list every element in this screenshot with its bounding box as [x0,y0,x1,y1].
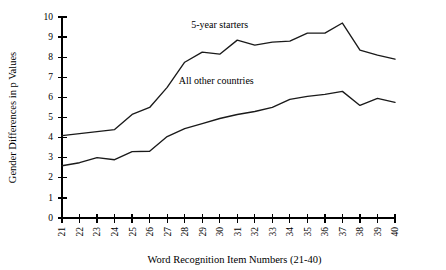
x-tick-label: 40 [390,227,400,237]
x-tick-label: 37 [338,227,348,237]
x-tick-label: 25 [128,227,138,237]
y-tick-label: 3 [48,152,53,162]
x-tick-label: 32 [250,227,260,237]
x-tick-label: 38 [355,227,365,237]
y-tick-label: 6 [48,92,53,102]
y-tick-label: 7 [48,72,53,82]
x-tick-label: 31 [233,227,243,237]
x-tick-label: 24 [110,227,120,237]
y-tick-label: 4 [48,132,53,142]
y-tick-label: 2 [48,172,53,182]
chart-container: 0123456789102122232425262728293031323334… [0,0,446,270]
x-tick-label: 23 [92,227,102,237]
x-tick-label: 21 [57,227,67,237]
x-tick-label: 36 [320,227,330,237]
x-tick-label: 22 [75,227,85,237]
y-tick-label: 10 [44,12,54,22]
x-tick-label: 33 [268,227,278,237]
series-label-1: 5-year starters [191,19,248,30]
x-tick-label: 34 [285,227,295,237]
x-tick-label: 28 [180,227,190,237]
x-tick-label: 30 [215,227,225,237]
y-tick-label: 8 [48,52,53,62]
y-tick-label: 9 [48,32,53,42]
y-axis-title: Gender Differences in p Values [7,52,18,183]
series-line-2 [62,91,395,165]
x-axis-title: Word Recognition Item Numbers (21-40) [147,254,322,266]
x-tick-label: 29 [198,227,208,237]
y-tick-label: 0 [48,213,53,223]
x-tick-label: 35 [303,227,313,237]
line-chart: 0123456789102122232425262728293031323334… [0,0,446,270]
x-tick-label: 26 [145,227,155,237]
series-label-2: All other countries [179,75,254,86]
x-tick-label: 27 [163,227,173,237]
x-tick-label: 39 [373,227,383,237]
y-tick-label: 5 [48,112,53,122]
y-tick-label: 1 [48,193,53,203]
